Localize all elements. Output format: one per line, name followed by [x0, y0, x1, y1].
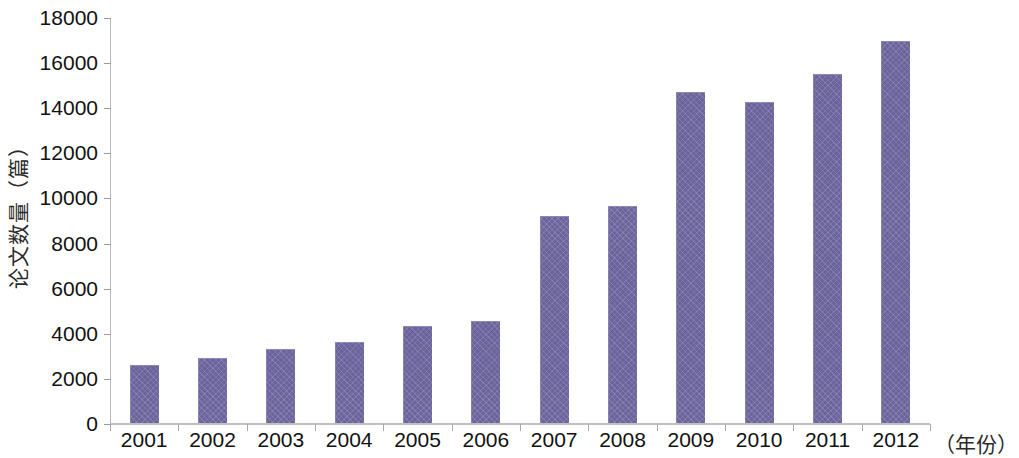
x-axis-tick-labels: 2001200220032004200520062007200820092010… [110, 428, 930, 458]
y-axis-tick-mark [104, 334, 111, 335]
bar-2002 [198, 358, 227, 423]
y-axis-tick-mark [104, 108, 111, 109]
y-axis-title: 论文数量（篇） [0, 0, 34, 424]
bar-chart: 论文数量（篇） 02000400060008000100001200014000… [0, 0, 1019, 458]
x-axis-tick-label: 2001 [121, 428, 168, 452]
bar-2003 [266, 349, 295, 423]
y-axis-tick-label: 18000 [40, 6, 98, 30]
bar-2005 [403, 326, 432, 423]
bar-2008 [608, 206, 637, 423]
x-axis-tick-label: 2009 [667, 428, 714, 452]
x-axis-tick-label: 2006 [462, 428, 509, 452]
x-axis-tick-label: 2002 [189, 428, 236, 452]
y-axis-tick-mark [104, 153, 111, 154]
x-axis-tick-label: 2005 [394, 428, 441, 452]
y-axis-tick-label: 2000 [51, 367, 98, 391]
x-axis-tick-label: 2010 [736, 428, 783, 452]
y-axis-tick-labels: 0200040006000800010000120001400016000180… [34, 0, 104, 458]
plot-area [110, 18, 930, 424]
y-axis-title-text: 论文数量（篇） [2, 135, 32, 289]
y-axis-tick-label: 12000 [40, 141, 98, 165]
y-axis-tick-label: 10000 [40, 186, 98, 210]
bar-2010 [745, 102, 774, 423]
y-axis-tick-label: 16000 [40, 51, 98, 75]
y-axis-tick-mark [104, 379, 111, 380]
bar-2009 [676, 92, 705, 423]
y-axis-tick-label: 6000 [51, 277, 98, 301]
x-axis-tick-label: 2011 [805, 428, 850, 452]
y-axis-tick-mark [104, 198, 111, 199]
bar-series [110, 18, 930, 424]
x-axis-tick-label: 2004 [326, 428, 373, 452]
y-axis-tick-label: 8000 [51, 232, 98, 256]
y-axis-tick-mark [104, 289, 111, 290]
bar-2012 [881, 41, 910, 423]
x-axis-tick-label: 2012 [872, 428, 919, 452]
bar-2007 [540, 216, 569, 423]
x-axis-tick-label: 2008 [599, 428, 646, 452]
y-axis-tick-mark [104, 244, 111, 245]
x-axis-tick-label: 2007 [531, 428, 578, 452]
y-axis-tick-label: 14000 [40, 96, 98, 120]
y-axis-tick-label: 4000 [51, 322, 98, 346]
bar-2006 [471, 321, 500, 423]
y-axis-tick-label: 0 [86, 412, 98, 436]
bar-2004 [335, 342, 364, 423]
x-axis-tick-mark [930, 424, 931, 431]
y-axis-tick-mark [104, 18, 111, 19]
x-axis-tick-label: 2003 [257, 428, 304, 452]
bar-2001 [130, 365, 159, 423]
bar-2011 [813, 74, 842, 423]
x-axis-title: （年份） [934, 428, 1018, 458]
y-axis-tick-mark [104, 63, 111, 64]
